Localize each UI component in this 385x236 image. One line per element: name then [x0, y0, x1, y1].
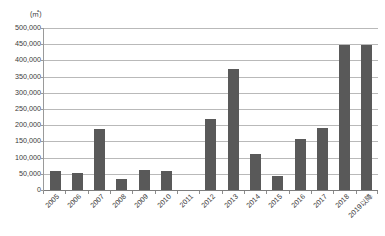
bar[interactable]	[361, 45, 372, 190]
x-axis-tick-label-text: 2006	[66, 193, 82, 209]
bar-slot	[200, 28, 222, 190]
x-axis-tick-mark	[43, 191, 44, 194]
x-axis-tick-label-text: 2008	[111, 193, 127, 209]
y-axis-tick-label: 0	[37, 186, 41, 193]
x-axis-label-slot: 2005	[43, 195, 65, 235]
bar[interactable]	[205, 119, 216, 190]
x-axis-label-slot: 2008	[110, 195, 132, 235]
x-axis-label-slot: 2019以降	[356, 195, 378, 235]
bar[interactable]	[339, 45, 350, 190]
x-axis-label-slot: 2009	[132, 195, 154, 235]
x-axis-tick-label-text: 2012	[200, 193, 216, 209]
x-axis-tick-label-text: 2016	[290, 193, 306, 209]
x-axis-label-slot: 2011	[177, 195, 199, 235]
y-axis-tick-label: 50,000	[19, 170, 41, 177]
bar-slot	[44, 28, 66, 190]
bar-slot	[178, 28, 200, 190]
y-axis-tick-label: 500,000	[15, 24, 41, 31]
bar[interactable]	[228, 69, 239, 190]
bar[interactable]	[317, 128, 328, 190]
x-axis-labels: 2005200620072008200920102011201220132014…	[43, 195, 378, 235]
y-axis-tick-label: 100,000	[15, 154, 41, 161]
bar[interactable]	[161, 171, 172, 190]
bar-slot	[267, 28, 289, 190]
y-axis-unit-label: (㎡)	[30, 8, 42, 18]
bar-slot	[66, 28, 88, 190]
y-axis-tick-label: 300,000	[15, 89, 41, 96]
y-axis-tick-label: 450,000	[15, 41, 41, 48]
bar[interactable]	[94, 129, 105, 190]
bar-slot	[244, 28, 266, 190]
bar[interactable]	[250, 154, 261, 190]
x-axis-tick-label-text: 2015	[267, 193, 283, 209]
x-axis-label-slot: 2013	[222, 195, 244, 235]
plot-area: 500,000450,000400,000350,000300,000250,0…	[43, 28, 378, 191]
x-axis-tick-label-text: 2017	[312, 193, 328, 209]
x-axis-label-slot: 2012	[199, 195, 221, 235]
bar-slot	[89, 28, 111, 190]
x-axis-tick-label-text: 2014	[245, 193, 261, 209]
bar-slot	[289, 28, 311, 190]
bar-chart: (㎡) 500,000450,000400,000350,000300,0002…	[0, 0, 385, 236]
x-axis-tick-label-text: 2013	[223, 193, 239, 209]
y-axis-tick-label: 400,000	[15, 57, 41, 64]
bar-slot	[222, 28, 244, 190]
x-axis-tick-label-text: 2011	[178, 193, 194, 209]
x-axis-tick-label-text: 2007	[89, 193, 105, 209]
x-axis-label-slot: 2014	[244, 195, 266, 235]
bar-slot	[111, 28, 133, 190]
x-axis-tick-label-text: 2010	[156, 193, 172, 209]
y-axis-tick-label: 250,000	[15, 105, 41, 112]
y-axis-tick-label: 200,000	[15, 122, 41, 129]
x-axis-label-slot: 2015	[266, 195, 288, 235]
bars-group	[44, 28, 378, 190]
y-axis-tick-label: 350,000	[15, 73, 41, 80]
x-axis-label-slot: 2007	[88, 195, 110, 235]
x-axis-label-slot: 2010	[155, 195, 177, 235]
x-axis-tick-label-text: 2009	[133, 193, 149, 209]
bar-slot	[356, 28, 378, 190]
bar[interactable]	[295, 139, 306, 190]
bar-slot	[333, 28, 355, 190]
x-axis-label-slot: 2006	[65, 195, 87, 235]
bar-slot	[133, 28, 155, 190]
x-axis-label-slot: 2016	[289, 195, 311, 235]
x-axis-tick-label-text: 2005	[44, 193, 60, 209]
y-axis-tick-label: 150,000	[15, 138, 41, 145]
bar-slot	[155, 28, 177, 190]
x-axis-label-slot: 2017	[311, 195, 333, 235]
bar-slot	[311, 28, 333, 190]
x-axis-tick-label-text: 2018	[334, 193, 350, 209]
